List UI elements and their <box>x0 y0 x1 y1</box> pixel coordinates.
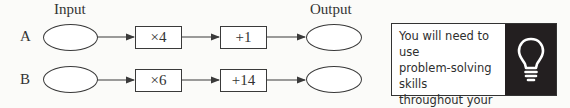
operation-box-a-2: +1 <box>220 26 267 49</box>
operation-box-b-1: ×6 <box>135 69 182 92</box>
lightbulb-icon <box>516 36 546 84</box>
row-label-b: B <box>20 71 30 88</box>
row-label-a: A <box>20 28 31 45</box>
operation-box-b-2: +14 <box>220 69 267 92</box>
callout-line-3: throughout your exam <box>399 92 501 108</box>
input-ellipse-a <box>43 24 98 51</box>
callout-text: You will need to use problem-solving ski… <box>392 24 505 95</box>
output-ellipse-a <box>306 24 362 51</box>
input-ellipse-b <box>43 66 98 93</box>
icon-panel <box>505 24 556 95</box>
output-ellipse-b <box>306 66 362 93</box>
operation-box-a-1: ×4 <box>135 26 182 49</box>
exam-tip-callout: You will need to use problem-solving ski… <box>391 23 557 96</box>
callout-line-1: You will need to use <box>399 28 501 60</box>
callout-line-2: problem-solving skills <box>399 60 501 92</box>
